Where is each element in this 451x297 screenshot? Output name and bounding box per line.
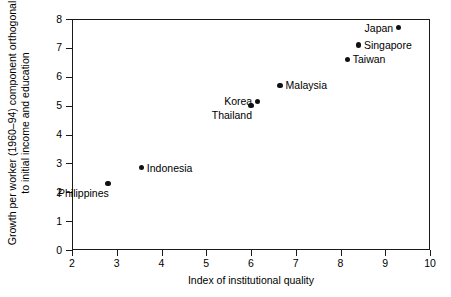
y-tick-mark — [66, 106, 73, 107]
data-point-label-singapore: Singapore — [364, 39, 412, 50]
x-tick-label: 2 — [52, 258, 92, 269]
x-tick-mark — [385, 250, 386, 256]
data-point-label-thailand: Thailand — [212, 110, 252, 121]
x-tick-label: 7 — [276, 258, 316, 269]
data-point-label-philippines: Philippines — [58, 188, 109, 199]
y-tick-mark — [66, 48, 73, 49]
y-tick-mark — [66, 135, 73, 136]
data-point-thailand — [248, 103, 253, 108]
x-tick-label: 3 — [97, 258, 137, 269]
x-tick-label: 9 — [365, 258, 405, 269]
x-tick-mark — [296, 250, 297, 256]
x-tick-mark — [251, 250, 252, 256]
scatter-chart: 012345678 2345678910 JapanSingaporeTaiwa… — [0, 0, 451, 297]
x-tick-label: 5 — [186, 258, 226, 269]
y-tick-mark — [66, 163, 73, 164]
x-tick-label: 10 — [410, 258, 450, 269]
data-point-singapore — [356, 42, 361, 47]
x-tick-mark — [117, 250, 118, 256]
x-tick-label: 4 — [142, 258, 182, 269]
y-tick-mark — [66, 19, 73, 20]
data-point-malaysia — [277, 83, 282, 88]
y-axis-title: Growth per worker (1960–94) component or… — [6, 0, 32, 247]
data-point-philippines — [105, 181, 110, 186]
x-tick-mark — [206, 250, 207, 256]
x-tick-mark — [162, 250, 163, 256]
x-tick-mark — [72, 250, 73, 256]
data-point-label-taiwan: Taiwan — [353, 54, 386, 65]
x-tick-mark — [430, 250, 431, 256]
data-point-label-indonesia: Indonesia — [147, 162, 193, 173]
data-point-label-malaysia: Malaysia — [286, 80, 327, 91]
y-tick-mark — [66, 221, 73, 222]
x-tick-label: 8 — [321, 258, 361, 269]
data-point-label-japan: Japan — [365, 22, 394, 33]
y-tick-mark — [66, 77, 73, 78]
x-tick-mark — [341, 250, 342, 256]
data-point-taiwan — [345, 57, 350, 62]
x-tick-label: 6 — [231, 258, 271, 269]
x-axis-title: Index of institutional quality — [72, 274, 430, 286]
